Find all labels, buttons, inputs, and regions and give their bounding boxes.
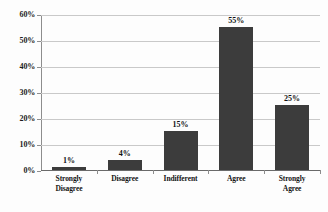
x-axis-category-labels: StronglyDisagreeDisagreeIndifferentAgree… [41, 174, 320, 212]
bar[interactable] [219, 27, 253, 170]
bar-value-label: 55% [228, 17, 244, 25]
x-axis-category-label: Indifferent [164, 174, 198, 184]
x-axis-category-label: StronglyDisagree [55, 174, 82, 194]
y-axis-tickmark [37, 171, 41, 172]
bar-value-label: 4% [119, 150, 131, 158]
gridline [41, 67, 320, 68]
x-axis-category-label: Disagree [111, 174, 138, 184]
y-axis-tick-label: 20% [0, 115, 35, 123]
x-axis-category-label: Agree [227, 174, 246, 184]
bar-value-label: 15% [173, 121, 189, 129]
y-axis-tickmark [37, 93, 41, 94]
x-axis-category-label: Strongly Agree [278, 174, 306, 194]
y-axis-tick-label: 0% [0, 167, 35, 175]
y-axis-tick-label: 40% [0, 63, 35, 71]
x-axis-line [41, 170, 320, 171]
y-axis-tick-label: 50% [0, 37, 35, 45]
y-axis-tick-label: 10% [0, 141, 35, 149]
y-axis-tickmark [37, 145, 41, 146]
x-axis-tickmark [320, 170, 321, 174]
y-axis-tickmark [37, 67, 41, 68]
gridline [41, 15, 320, 16]
bar-value-label: 1% [63, 157, 75, 165]
bar-value-label: 25% [284, 95, 300, 103]
bar[interactable] [275, 105, 309, 170]
y-axis-tick-label: 30% [0, 89, 35, 97]
y-axis-tickmark [37, 41, 41, 42]
bar[interactable] [108, 160, 142, 170]
plot-area [41, 15, 320, 171]
bar[interactable] [52, 167, 86, 170]
gridline [41, 93, 320, 94]
y-axis-tick-labels: 0%10%20%30%40%50%60% [0, 0, 38, 212]
y-axis-tick-label: 60% [0, 11, 35, 19]
y-axis-tickmark [37, 15, 41, 16]
y-axis-tickmark [37, 119, 41, 120]
gridline [41, 41, 320, 42]
bar[interactable] [164, 131, 198, 170]
bar-chart: 0%10%20%30%40%50%60% StronglyDisagreeDis… [0, 0, 328, 212]
